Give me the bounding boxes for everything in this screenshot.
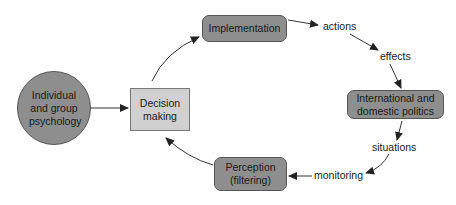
node-label: Implementation xyxy=(209,22,281,35)
node-implementation: Implementation xyxy=(202,15,287,42)
edge-label-situations: situations xyxy=(372,141,416,153)
node-label: Individual and group psychology xyxy=(29,89,79,128)
arrow-actions-to-effects xyxy=(350,34,378,50)
arrow-situations-to-monitoring xyxy=(366,154,389,173)
arrow-effects-to-politics xyxy=(390,64,401,88)
node-individual-group-psychology: Individual and group psychology xyxy=(17,71,91,145)
edge-label-effects: effects xyxy=(380,50,411,62)
node-label: International and domestic politics xyxy=(353,92,439,118)
edge-label-monitoring: monitoring xyxy=(314,169,363,181)
node-label: Decision making xyxy=(138,97,182,123)
arrow-perception-to-decision xyxy=(166,138,213,165)
node-international-domestic-politics: International and domestic politics xyxy=(347,90,444,119)
arrow-implementation-to-actions xyxy=(288,20,318,25)
arrow-politics-to-situations xyxy=(397,121,402,140)
edge-label-actions: actions xyxy=(323,20,356,32)
node-label: Perception (filtering) xyxy=(222,161,280,187)
node-perception-filtering: Perception (filtering) xyxy=(214,157,287,191)
node-decision-making: Decision making xyxy=(130,88,190,131)
arrow-decision-to-implementation xyxy=(152,37,199,81)
